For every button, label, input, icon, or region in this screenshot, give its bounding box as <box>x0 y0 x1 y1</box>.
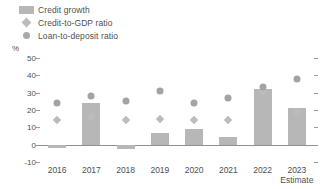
y-axis-tick-mark <box>36 93 40 94</box>
y-axis-tick-mark <box>314 110 318 111</box>
x-axis-label: 2016 <box>48 165 67 175</box>
legend-item-loan-to-deposit: Loan-to-deposit ratio <box>14 29 118 42</box>
y-axis-tick-mark <box>36 127 40 128</box>
bar <box>117 145 135 149</box>
credit-indicators-chart: Credit growth Credit-to-GDP ratio Loan-t… <box>0 0 329 189</box>
plot-area: 50403020100-10 <box>40 58 314 162</box>
y-axis-tick-mark <box>314 58 318 59</box>
bar <box>82 103 100 145</box>
legend-label: Credit-to-GDP ratio <box>38 18 113 28</box>
y-axis-tick-mark <box>36 162 40 163</box>
bar <box>48 145 66 148</box>
y-axis-tick-mark <box>36 58 40 59</box>
y-axis-tick-mark <box>314 75 318 76</box>
credit-to-gdp-point <box>121 116 129 124</box>
legend-item-credit-to-gdp: Credit-to-GDP ratio <box>14 16 118 29</box>
y-axis-tick-mark <box>36 75 40 76</box>
x-axis-labels: 20162017201820192020202120222023Estimate <box>40 165 314 189</box>
loan-to-deposit-point <box>54 100 61 107</box>
x-axis-label: 2017 <box>82 165 101 175</box>
loan-to-deposit-point <box>122 98 129 105</box>
y-axis-tick-mark <box>36 110 40 111</box>
x-axis-label: 2022 <box>253 165 272 175</box>
bar <box>219 137 237 145</box>
loan-to-deposit-point <box>293 75 300 82</box>
diamond-marker-icon <box>14 19 38 26</box>
zero-baseline <box>36 145 318 146</box>
y-axis-tick-mark <box>314 162 318 163</box>
loan-to-deposit-point <box>259 84 266 91</box>
x-axis-label: 2020 <box>185 165 204 175</box>
credit-to-gdp-point <box>156 114 164 122</box>
credit-to-gdp-point <box>190 116 198 124</box>
x-axis-label: 2023Estimate <box>280 165 313 185</box>
loan-to-deposit-point <box>156 87 163 94</box>
y-axis-tick-mark <box>314 93 318 94</box>
credit-to-gdp-point <box>53 116 61 124</box>
chart-legend: Credit growth Credit-to-GDP ratio Loan-t… <box>14 3 118 42</box>
bar-swatch-icon <box>14 6 38 14</box>
loan-to-deposit-point <box>88 93 95 100</box>
x-axis-label: 2018 <box>116 165 135 175</box>
legend-item-credit-growth: Credit growth <box>14 3 118 16</box>
x-axis-label: 2021 <box>219 165 238 175</box>
circle-marker-icon <box>14 32 38 39</box>
x-axis-label: 2019 <box>150 165 169 175</box>
loan-to-deposit-point <box>225 94 232 101</box>
bar <box>151 133 169 145</box>
legend-label: Loan-to-deposit ratio <box>38 31 118 41</box>
y-axis-unit-label: % <box>12 44 19 53</box>
x-axis-sublabel: Estimate <box>280 175 313 185</box>
credit-to-gdp-point <box>224 116 232 124</box>
bar <box>254 89 272 144</box>
bar <box>185 129 203 145</box>
legend-label: Credit growth <box>38 5 90 15</box>
y-axis-tick-mark <box>314 127 318 128</box>
loan-to-deposit-point <box>191 100 198 107</box>
